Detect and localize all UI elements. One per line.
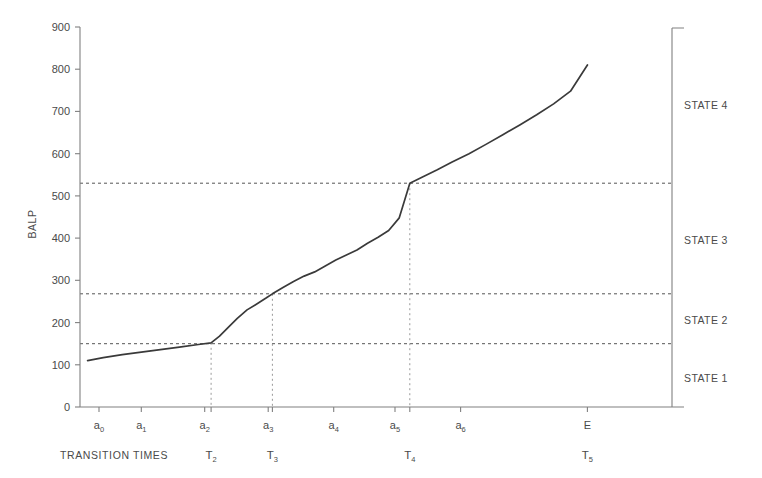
transition-label-T2: T2 <box>205 449 216 464</box>
y-tick-label-0: 0 <box>64 401 70 413</box>
y-tick-label-200: 200 <box>52 317 70 329</box>
y-tick-label-100: 100 <box>52 359 70 371</box>
state-label-1: STATE 1 <box>684 372 728 384</box>
transition-label-T4: T4 <box>404 449 415 464</box>
balp-data-line <box>88 65 588 361</box>
x-category-label-E: E <box>584 419 591 431</box>
y-axis-title: BALP <box>26 210 38 239</box>
x-category-label-a1: a1 <box>136 419 146 434</box>
state-labels-group: STATE 1STATE 2STATE 3STATE 4 <box>684 99 728 384</box>
x-axis-title: TRANSITION TIMES <box>60 449 168 461</box>
transition-label-T5: T5 <box>582 449 593 464</box>
x-category-label-a0: a0 <box>94 419 104 434</box>
x-category-label-a5: a5 <box>390 419 400 434</box>
y-tick-label-800: 800 <box>52 63 70 75</box>
x-category-label-a3: a3 <box>263 419 273 434</box>
state-bracket <box>672 28 684 407</box>
y-tick-label-900: 900 <box>52 21 70 33</box>
x-category-label-a6: a6 <box>455 419 465 434</box>
x-category-label-a4: a4 <box>329 419 339 434</box>
x-category-label-a2: a2 <box>200 419 210 434</box>
x-axis-ticks-group <box>99 407 587 412</box>
transition-marker-lines-group <box>211 183 410 407</box>
y-tick-label-600: 600 <box>52 148 70 160</box>
y-tick-label-500: 500 <box>52 190 70 202</box>
balp-transition-chart: 0100200300400500600700800900 a0a1a2a3a4a… <box>0 0 762 478</box>
state-label-3: STATE 3 <box>684 234 728 246</box>
state-label-4: STATE 4 <box>684 99 728 111</box>
chart-container: 0100200300400500600700800900 a0a1a2a3a4a… <box>0 0 762 478</box>
transition-label-T3: T3 <box>267 449 278 464</box>
transition-time-labels-group: T2T3T4T5 <box>205 449 593 464</box>
x-axis-category-labels-group: a0a1a2a3a4a5a6E <box>94 419 591 434</box>
y-tick-label-300: 300 <box>52 274 70 286</box>
y-tick-label-700: 700 <box>52 105 70 117</box>
y-axis-ticks-group: 0100200300400500600700800900 <box>52 21 80 413</box>
threshold-lines-group <box>80 183 672 344</box>
state-label-2: STATE 2 <box>684 314 728 326</box>
y-tick-label-400: 400 <box>52 232 70 244</box>
